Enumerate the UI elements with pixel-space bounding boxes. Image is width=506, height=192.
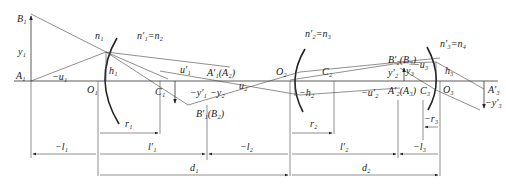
ray-b1 <box>106 52 188 105</box>
dim-label-r2: r₂ <box>310 118 318 129</box>
label-O3: O₃ <box>443 84 454 95</box>
label-n1p-n2: n′₁=n₂ <box>137 30 163 41</box>
label-n1: n₁ <box>95 30 103 41</box>
label-A1: A₁ <box>15 70 26 81</box>
dim-label-r3: −r₃ <box>424 113 439 124</box>
label-A1p-A2: A′₁(A₂) <box>206 67 236 79</box>
label-u1p: u′₁ <box>180 64 191 75</box>
ray-s2-to-s3 <box>290 62 484 89</box>
dim-label-l1: −l₁ <box>55 141 68 152</box>
label-B1: B₁ <box>17 13 27 24</box>
dim-label-l3: −l₃ <box>413 141 427 152</box>
dim-label-l2: −l₂ <box>240 141 254 152</box>
surface-3 <box>427 47 436 110</box>
label-y1: y₁ <box>17 46 26 57</box>
dim-label-r1: r₁ <box>125 118 132 129</box>
label-h1: h₁ <box>109 65 117 76</box>
label-O2: O₂ <box>276 66 287 77</box>
surface-2 <box>295 49 305 112</box>
label-C2: C₂ <box>322 66 333 77</box>
label-u2: u₂ <box>239 80 248 91</box>
label-h2: −h₂ <box>299 87 315 98</box>
label-u2p: −u′₂ <box>361 87 379 98</box>
dim-label-l2p: l′₂ <box>340 141 349 152</box>
label-A3p: A′₃ <box>487 84 500 95</box>
label-n2p-n3: n′₂=n₃ <box>305 28 331 39</box>
label-O1: O₁ <box>87 84 98 95</box>
label-C3: C₃ <box>420 85 431 96</box>
label-y3p: −y′₃ <box>485 97 502 108</box>
dim-label-d1: d₁ <box>190 162 198 173</box>
ray-chief-1 <box>31 14 168 79</box>
label-y1p: −y′₁ <box>190 87 207 98</box>
label-y2p: y′₂ <box>387 67 399 78</box>
optical-diagram: B₁ y₁ A₁ −u₁ n₁ n′₁=n₂ h₁ O₁ C₁ u′₁ A′₁(… <box>0 0 506 192</box>
label-C1: C₁ <box>155 86 165 97</box>
label-y2: −y₂ <box>210 87 225 98</box>
label-u1: −u₁ <box>52 71 67 82</box>
label-h3: h₃ <box>445 65 454 76</box>
dim-label-d2: d₂ <box>362 162 371 173</box>
dim-label-l1p: l′₁ <box>148 141 156 152</box>
label-u3: −u₃ <box>413 59 429 70</box>
label-n3p-n4: n′₃=n₄ <box>440 38 466 49</box>
label-A2p-A3: A′₂(A₃) <box>387 85 417 97</box>
label-B1p-B2: B′₁(B₂) <box>196 108 225 120</box>
